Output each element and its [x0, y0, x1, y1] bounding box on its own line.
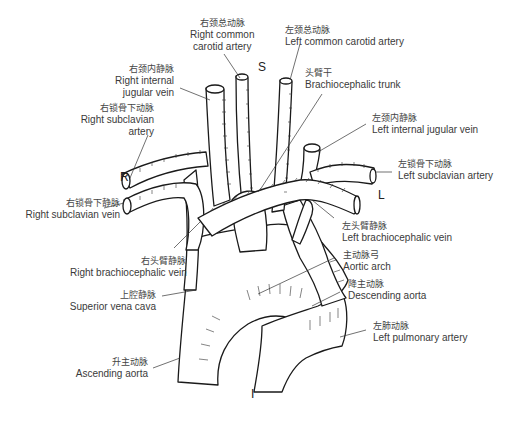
- orientation-left: L: [378, 188, 385, 202]
- label-left-pulmonary-artery: 左肺动脉 Left pulmonary artery: [373, 320, 468, 344]
- right-common-carotid-artery-shape: [236, 75, 252, 204]
- label-brachiocephalic-trunk: 头臂干 Brachiocephalic trunk: [305, 67, 401, 91]
- label-left-brachiocephalic-vein: 左头臂静脉 Left brachiocephalic vein: [342, 220, 452, 244]
- right-internal-jugular-vein-shape: [206, 86, 230, 206]
- orientation-right: R: [120, 170, 129, 184]
- label-left-common-carotid-artery: 左颈总动脉 Left common carotid artery: [285, 24, 404, 48]
- label-right-common-carotid-artery: 右颈总动脉 Right common carotid artery: [190, 17, 254, 53]
- label-right-subclavian-artery: 右锁骨下动脉 Right subclavian artery: [78, 102, 154, 138]
- orientation-superior: S: [258, 60, 266, 74]
- label-left-subclavian-artery: 左锁骨下动脉 Left subclavian artery: [398, 158, 493, 182]
- label-descending-aorta: 降主动脉 Descending aorta: [348, 278, 426, 302]
- label-superior-vena-cava: 上腔静脉 Superior vena cava: [62, 289, 156, 313]
- label-ascending-aorta: 升主动脉 Ascending aorta: [62, 356, 148, 380]
- label-right-internal-jugular-vein: 右颈内静脉 Right internal jugular vein: [112, 63, 174, 99]
- label-right-brachiocephalic-vein: 右头臂静脉 Right brachiocephalic vein: [70, 255, 186, 279]
- orientation-inferior: I: [251, 387, 254, 401]
- label-left-internal-jugular-vein: 左颈内静脉 Left internal jugular vein: [372, 112, 478, 136]
- label-right-subclavian-vein: 右锁骨下静脉 Right subclavian vein: [20, 197, 120, 221]
- right-subclavian-vein-shape: [124, 183, 204, 250]
- label-aortic-arch: 主动脉弓 Aortic arch: [343, 249, 391, 273]
